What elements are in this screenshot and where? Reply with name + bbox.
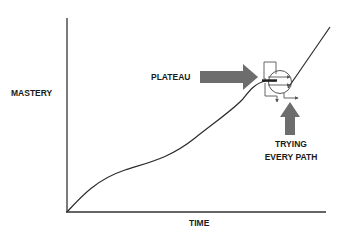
breakthrough-line <box>288 27 330 88</box>
trying-every-path-label: TRYING EVERY PATH <box>258 138 324 164</box>
learning-curve <box>67 81 276 212</box>
x-axis-label: TIME <box>189 218 209 228</box>
mastery-curve-diagram <box>0 0 342 244</box>
plateau-label: PLATEAU <box>151 72 191 82</box>
trying-arrow-icon <box>280 102 300 135</box>
y-axis-label: MASTERY <box>11 88 52 98</box>
exploration-paths-icon <box>264 62 298 102</box>
trying-label-line1: TRYING <box>258 138 324 151</box>
plateau-arrow-icon <box>200 64 258 90</box>
trying-label-line2: EVERY PATH <box>258 151 324 164</box>
